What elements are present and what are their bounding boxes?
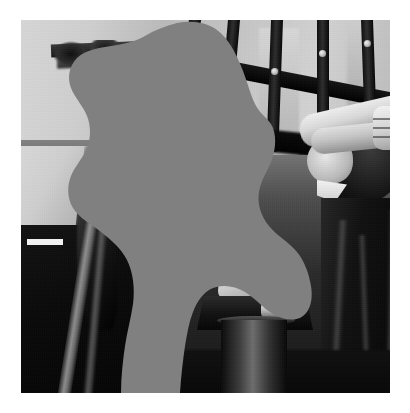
railing-rivet [319,50,326,57]
railing-rivet [226,58,234,66]
hair [53,40,145,98]
photograph [21,20,390,393]
eye-right [133,92,159,107]
railing-rivet [271,68,278,75]
finger-line [373,127,390,129]
finger-line [373,136,390,138]
railing-rivet [186,44,194,52]
eye-left [107,90,127,103]
fire-hydrant-body [221,320,287,393]
white-streak [27,239,63,245]
screenshot-stage [0,0,410,413]
hand-right [373,106,390,150]
woman-head-top-left [45,40,175,122]
railing-rivet [364,40,371,47]
finger-line [373,118,390,120]
